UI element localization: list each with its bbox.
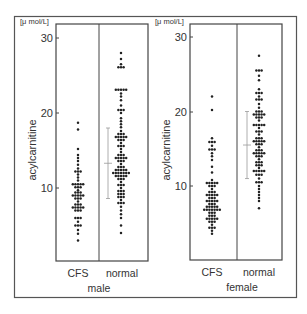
data-point — [211, 200, 214, 203]
data-point — [260, 152, 263, 155]
data-point — [117, 178, 120, 181]
data-point — [258, 158, 261, 161]
data-point — [74, 203, 77, 206]
data-point — [208, 182, 211, 185]
data-point — [120, 172, 123, 175]
data-point — [79, 197, 82, 200]
data-point — [258, 191, 261, 194]
data-point — [258, 124, 261, 127]
female-tick-label-30: 30 — [175, 31, 187, 43]
data-point — [258, 164, 261, 167]
data-point — [122, 196, 125, 199]
male-plot-area — [56, 24, 148, 261]
data-point — [74, 206, 77, 209]
data-point — [255, 152, 258, 155]
female-panel: [μ mol/L] 30 20 10 acylcarnitine CFS nor… — [155, 17, 282, 293]
data-point — [258, 79, 261, 82]
data-point — [253, 124, 256, 127]
data-point — [122, 175, 125, 178]
data-point — [74, 194, 77, 197]
data-point — [122, 190, 125, 193]
data-point — [74, 209, 77, 212]
data-point — [216, 206, 219, 209]
data-point — [260, 143, 263, 146]
data-point — [213, 209, 216, 212]
data-point — [208, 203, 211, 206]
data-point — [117, 136, 120, 139]
data-point — [263, 113, 266, 116]
data-point — [122, 184, 125, 187]
data-point — [112, 172, 115, 175]
data-point — [260, 161, 263, 164]
data-point — [120, 178, 123, 181]
data-point — [211, 182, 214, 185]
data-point — [219, 209, 222, 212]
data-point — [77, 239, 80, 242]
data-point — [117, 145, 120, 148]
data-point — [258, 174, 261, 177]
female-plot-area — [190, 24, 282, 260]
data-point — [211, 215, 214, 218]
data-point — [208, 194, 211, 197]
data-point — [206, 209, 209, 212]
data-point — [74, 191, 77, 194]
female-group-label: female — [226, 281, 258, 293]
data-point — [122, 136, 125, 139]
data-point — [258, 155, 261, 158]
data-point — [117, 109, 120, 112]
data-point — [115, 175, 118, 178]
data-point — [77, 221, 80, 224]
male-cfs-dots — [72, 122, 85, 242]
data-point — [117, 193, 120, 196]
data-point — [77, 197, 80, 200]
data-point — [211, 148, 214, 151]
data-point — [213, 206, 216, 209]
data-point — [122, 145, 125, 148]
data-point — [255, 98, 258, 101]
data-point — [211, 191, 214, 194]
data-point — [211, 212, 214, 215]
data-point — [258, 113, 261, 116]
data-point — [206, 200, 209, 203]
data-point — [206, 218, 209, 221]
data-point — [117, 157, 120, 160]
data-point — [120, 66, 123, 69]
data-point — [120, 154, 123, 157]
data-point — [125, 136, 128, 139]
female-normal-mean-sd-bar — [243, 112, 251, 179]
data-point — [115, 157, 118, 160]
data-point — [255, 124, 258, 127]
data-point — [74, 197, 77, 200]
data-point — [208, 185, 211, 188]
data-point — [72, 194, 75, 197]
data-point — [79, 194, 82, 197]
data-point — [120, 63, 123, 66]
data-point — [211, 159, 214, 162]
data-point — [120, 157, 123, 160]
data-point — [79, 203, 82, 206]
data-point — [117, 160, 120, 163]
data-point — [255, 155, 258, 158]
chart-figure: [μ mol/L] 30 20 10 acylcarnitine CFS nor… — [0, 0, 307, 314]
data-point — [263, 140, 266, 143]
data-point — [117, 139, 120, 142]
female-y-axis-label: acylcarnitine — [160, 119, 172, 180]
data-point — [208, 206, 211, 209]
data-point — [213, 191, 216, 194]
data-point — [211, 152, 214, 155]
female-category-normal: normal — [243, 266, 275, 278]
data-point — [122, 89, 125, 92]
data-point — [74, 217, 77, 220]
data-point — [258, 110, 261, 113]
data-point — [208, 209, 211, 212]
data-point — [122, 172, 125, 175]
data-point — [125, 172, 128, 175]
data-point — [77, 209, 80, 212]
data-point — [253, 152, 256, 155]
female-normal-dots — [253, 54, 266, 209]
data-point — [211, 141, 214, 144]
data-point — [255, 130, 258, 133]
data-point — [115, 136, 118, 139]
data-point — [77, 176, 80, 179]
data-point — [260, 98, 263, 101]
